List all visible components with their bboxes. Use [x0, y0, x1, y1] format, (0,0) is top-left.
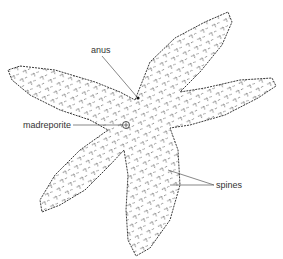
madreporite-marker	[123, 122, 130, 129]
label-anus: anus	[91, 45, 111, 55]
label-spines: spines	[216, 180, 242, 190]
label-madreporite: madreporite	[23, 120, 71, 130]
starfish-body	[8, 12, 276, 256]
